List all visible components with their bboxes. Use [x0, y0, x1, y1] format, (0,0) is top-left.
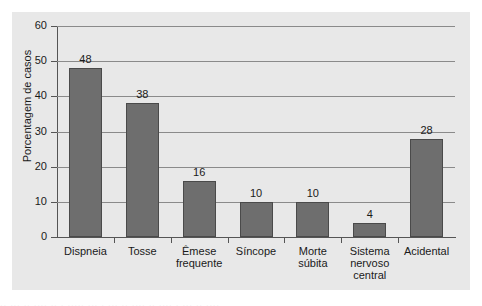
- x-tick: [171, 238, 172, 243]
- y-tick-50: [51, 61, 57, 62]
- bar-value-label: 4: [345, 209, 395, 220]
- x-category-label-line: frequente: [165, 257, 233, 269]
- bar: [240, 202, 273, 237]
- y-axis-labels: 0102030405060: [0, 0, 47, 278]
- y-tick-label-20: 20: [7, 161, 47, 172]
- bar: [353, 223, 386, 237]
- y-tick-label-30: 30: [7, 126, 47, 137]
- bar: [183, 181, 216, 237]
- bar-value-label: 16: [174, 167, 224, 178]
- x-tick: [228, 238, 229, 243]
- y-tick-label-10: 10: [7, 196, 47, 207]
- figure: Porcentagem de casos 0102030405060 48Dis…: [0, 0, 482, 306]
- y-tick-label-0: 0: [7, 231, 47, 242]
- x-tick: [398, 238, 399, 243]
- gridline-50: [57, 61, 455, 62]
- plot-area: [57, 26, 455, 237]
- y-tick-60: [51, 26, 57, 27]
- y-tick-label-60: 60: [7, 20, 47, 31]
- y-tick-30: [51, 132, 57, 133]
- x-axis-line: [57, 237, 456, 238]
- y-tick-20: [51, 167, 57, 168]
- gridline-20: [57, 167, 455, 168]
- x-category-label-line: central: [336, 269, 404, 281]
- bar: [410, 139, 443, 237]
- y-tick-0: [51, 237, 57, 238]
- gridline-30: [57, 132, 455, 133]
- y-tick-40: [51, 96, 57, 97]
- bar-value-label: 28: [402, 125, 452, 136]
- bar: [126, 103, 159, 237]
- bar-value-label: 10: [231, 188, 281, 199]
- bar: [296, 202, 329, 237]
- caption-bleed: .. ... .. .... .. . ..... ... . ... .. .…: [0, 298, 482, 306]
- bar-value-label: 10: [288, 188, 338, 199]
- bar-value-label: 48: [60, 54, 110, 65]
- x-tick: [114, 238, 115, 243]
- gridline-60: [57, 26, 455, 27]
- x-category-label: Acidental: [393, 245, 461, 257]
- x-category-label-line: nervoso: [336, 257, 404, 269]
- bar: [69, 68, 102, 237]
- y-tick-10: [51, 202, 57, 203]
- x-tick: [284, 238, 285, 243]
- y-tick-label-50: 50: [7, 55, 47, 66]
- bar-value-label: 38: [117, 89, 167, 100]
- x-category-label-line: Acidental: [393, 245, 461, 257]
- y-tick-label-40: 40: [7, 90, 47, 101]
- x-tick: [341, 238, 342, 243]
